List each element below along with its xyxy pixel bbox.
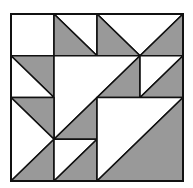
square-top-left-piece — [11, 14, 54, 56]
quilt-block-diagram — [0, 0, 193, 188]
quilt-pieces — [11, 14, 183, 181]
